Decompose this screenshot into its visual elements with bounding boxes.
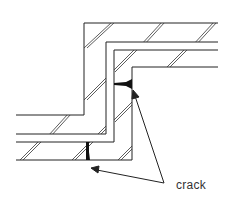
inner-wall-hatching bbox=[18, 48, 189, 162]
crack-vertical-lower bbox=[86, 142, 90, 160]
crack-label: crack bbox=[176, 178, 206, 192]
diagram-canvas: crack bbox=[0, 0, 233, 202]
crack-horizontal-upper bbox=[114, 79, 132, 89]
crack-leader-arrows bbox=[91, 90, 164, 183]
wall-section-drawing bbox=[0, 0, 233, 202]
